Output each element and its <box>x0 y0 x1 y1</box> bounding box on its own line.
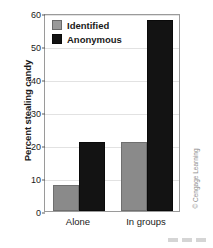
legend-swatch-gray <box>52 20 62 30</box>
scan-artifacts <box>168 238 208 243</box>
y-tick-label: 50 <box>1 43 41 53</box>
y-tick-mark <box>42 114 45 115</box>
y-tick-label: 40 <box>1 76 41 86</box>
bar-in-groups-anonymous <box>147 20 173 211</box>
y-tick-mark <box>42 147 45 148</box>
x-axis-label: In groups <box>106 216 186 227</box>
chart-legend: IdentifiedAnonymous <box>52 19 122 47</box>
legend-swatch-black <box>52 34 62 44</box>
bar-chart-figure: Percent stealing candy 0102030405060 Alo… <box>0 0 213 248</box>
y-tick-label: 20 <box>1 142 41 152</box>
y-tick-mark <box>42 81 45 82</box>
legend-item: Anonymous <box>52 33 122 45</box>
legend-label: Anonymous <box>67 34 122 45</box>
y-tick-mark <box>42 213 45 214</box>
y-tick-mark <box>42 15 45 16</box>
bar-in-groups-identified <box>121 142 147 211</box>
y-tick-label: 10 <box>1 175 41 185</box>
legend-item: Identified <box>52 19 122 31</box>
y-tick-label: 60 <box>1 10 41 20</box>
bar-alone-anonymous <box>79 142 105 211</box>
y-tick-mark <box>42 48 45 49</box>
gridline <box>45 15 179 16</box>
y-tick-label: 0 <box>1 208 41 218</box>
bar-alone-identified <box>53 185 79 211</box>
y-tick-label: 30 <box>1 109 41 119</box>
legend-label: Identified <box>67 20 109 31</box>
y-tick-mark <box>42 180 45 181</box>
copyright-credit: © Cengage Learning <box>192 124 199 234</box>
